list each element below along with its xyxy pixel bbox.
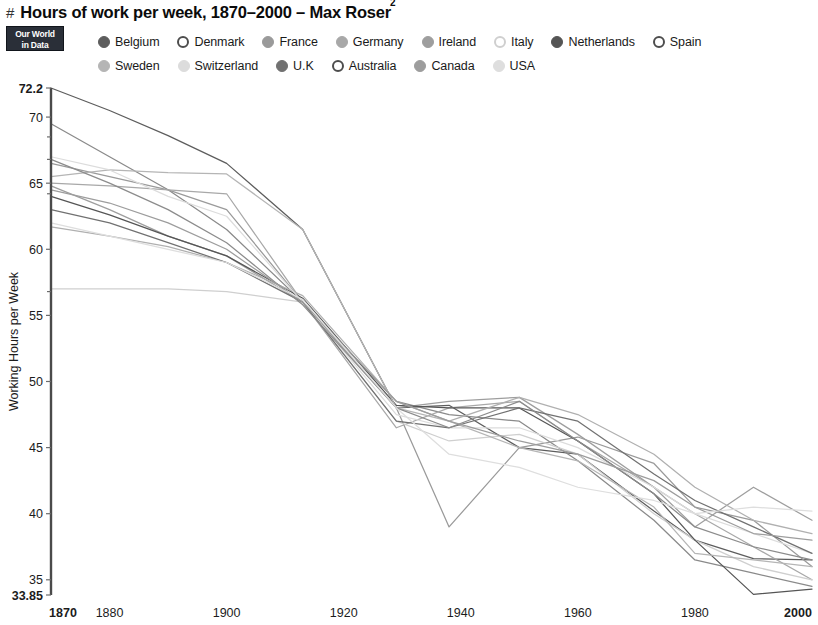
legend-swatch-icon [414, 60, 426, 72]
legend-swatch-icon [653, 36, 665, 48]
y-axis-tick-label: 35 [29, 573, 43, 587]
series-line-australia [51, 159, 812, 560]
legend-label: Ireland [439, 35, 477, 49]
legend-label: Belgium [115, 35, 159, 49]
y-axis-tick-label: 70 [29, 111, 43, 125]
series-line-spain [51, 227, 812, 534]
legend-item-italy[interactable]: Italy [494, 35, 533, 49]
legend-row: SwedenSwitzerlandU.KAustraliaCanadaUSA [78, 54, 814, 78]
series-line-sweden [51, 170, 812, 567]
legend-label: Netherlands [568, 35, 634, 49]
y-axis-tick-label: 72.2 [19, 82, 43, 96]
legend-item-canada[interactable]: Canada [414, 59, 474, 73]
line-chart-svg: 72.2706560555045403533.85187018801900192… [0, 0, 818, 625]
chart-legend: BelgiumDenmarkFranceGermanyIrelandItalyN… [78, 30, 814, 78]
y-axis-tick-label: 45 [29, 441, 43, 455]
legend-item-switzerland[interactable]: Switzerland [178, 59, 259, 73]
legend-item-belgium[interactable]: Belgium [98, 35, 159, 49]
legend-swatch-icon [177, 36, 189, 48]
legend-label: Spain [670, 35, 701, 49]
y-axis-tick-label: 60 [29, 243, 43, 257]
legend-item-ireland[interactable]: Ireland [422, 35, 477, 49]
series-line-canada [51, 190, 812, 540]
legend-label: Italy [511, 35, 533, 49]
series-line-switzerland [51, 157, 812, 554]
y-axis-title: Working Hours per Week [7, 271, 21, 411]
legend-swatch-icon [98, 60, 110, 72]
legend-label: Sweden [115, 59, 160, 73]
legend-label: Switzerland [195, 59, 259, 73]
legend-swatch-icon [551, 36, 563, 48]
legend-swatch-icon [262, 36, 274, 48]
legend-item-germany[interactable]: Germany [336, 35, 404, 49]
x-axis-tick-label: 1880 [96, 606, 124, 620]
legend-label: Denmark [194, 35, 244, 49]
series-line-belgium [51, 88, 812, 560]
logo-line-1: Our World [7, 29, 63, 40]
legend-item-u-k[interactable]: U.K [276, 59, 314, 73]
chart-title: Hours of work per week, 1870–2000 – Max … [20, 2, 396, 22]
legend-swatch-icon [494, 36, 506, 48]
legend-item-netherlands[interactable]: Netherlands [551, 35, 634, 49]
chart-title-footnote: 2 [390, 0, 395, 8]
y-axis-tick-label: 65 [29, 177, 43, 191]
legend-item-spain[interactable]: Spain [653, 35, 701, 49]
x-axis-tick-label: 2000 [784, 606, 812, 620]
y-axis-tick-label: 33.85 [12, 589, 43, 603]
legend-swatch-icon [276, 60, 288, 72]
hash-icon: # [6, 4, 14, 21]
series-line-netherlands [51, 196, 812, 594]
legend-swatch-icon [98, 36, 110, 48]
logo-line-2: in Data [7, 40, 63, 51]
legend-item-france[interactable]: France [262, 35, 317, 49]
legend-swatch-icon [178, 60, 190, 72]
legend-label: U.K [293, 59, 314, 73]
x-axis-tick-label: 1960 [564, 606, 592, 620]
y-axis-tick-label: 50 [29, 375, 43, 389]
chart-title-text: Hours of work per week, 1870–2000 – Max … [20, 3, 391, 21]
legend-swatch-icon [336, 36, 348, 48]
legend-item-usa[interactable]: USA [493, 59, 535, 73]
x-axis-tick-label: 1940 [447, 606, 475, 620]
legend-label: USA [510, 59, 535, 73]
legend-swatch-icon [493, 60, 505, 72]
x-axis-tick-label: 1870 [49, 606, 77, 620]
page-title: # Hours of work per week, 1870–2000 – Ma… [6, 2, 396, 22]
legend-swatch-icon [422, 36, 434, 48]
x-axis-tick-label: 1920 [330, 606, 358, 620]
series-line-germany [51, 183, 812, 580]
legend-label: Australia [349, 59, 397, 73]
legend-label: Germany [353, 35, 404, 49]
chart-plot-area: 72.2706560555045403533.85187018801900192… [0, 0, 818, 625]
y-axis-tick-label: 40 [29, 507, 43, 521]
series-line-italy [51, 289, 812, 580]
series-line-usa [51, 223, 812, 514]
x-axis-tick-label: 1900 [213, 606, 241, 620]
legend-row: BelgiumDenmarkFranceGermanyIrelandItalyN… [78, 30, 814, 54]
series-line-u-k [51, 210, 812, 554]
legend-item-denmark[interactable]: Denmark [177, 35, 244, 49]
series-line-ireland [51, 186, 812, 527]
y-axis-tick-label: 55 [29, 309, 43, 323]
series-line-denmark [51, 124, 812, 587]
legend-item-australia[interactable]: Australia [332, 59, 397, 73]
legend-label: Canada [431, 59, 474, 73]
legend-item-sweden[interactable]: Sweden [98, 59, 160, 73]
legend-swatch-icon [332, 60, 344, 72]
legend-label: France [279, 35, 317, 49]
our-world-in-data-logo[interactable]: Our World in Data [6, 26, 64, 51]
x-axis-tick-label: 1980 [681, 606, 709, 620]
series-line-france [51, 163, 812, 566]
